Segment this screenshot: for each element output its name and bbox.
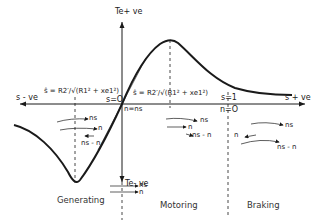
- generating-ns-label: ns: [89, 115, 97, 122]
- region-generating-label: Generating: [57, 196, 105, 205]
- braking-ns-arrow-icon: [251, 123, 283, 125]
- torque-axis-down-arrow-icon: [120, 176, 125, 182]
- torque-positive-label: Te+ ve: [115, 8, 142, 16]
- motoring-max-slip-formula: ŝ = R2′/√(R1² + xe1²): [133, 90, 208, 97]
- torque-axis-up-arrow-icon: [120, 22, 125, 28]
- slip-axis-left-arrow-icon: [20, 102, 26, 107]
- slip-negative-label: s - ve: [16, 94, 38, 102]
- motoring-ns-arrow-icon: [166, 118, 197, 121]
- generating-ns-arrow-icon: [57, 119, 88, 122]
- motoring-n-label: n: [188, 124, 192, 131]
- braking-ns-label: ns: [285, 122, 293, 129]
- braking-n-label: n: [234, 132, 238, 139]
- generating-n-arrow-icon: [60, 128, 97, 130]
- braking-n-arrow-icon: [245, 135, 256, 137]
- slip-axis-right-arrow-icon: [299, 102, 305, 107]
- torque-slip-diagram: [0, 0, 317, 223]
- braking-slip-label: ns - n: [277, 144, 297, 151]
- origin-slip-label: s=O: [106, 96, 123, 104]
- speed-zero-label: n=O: [220, 106, 238, 114]
- generating-slip-label: ns - n: [81, 140, 101, 147]
- slip-positive-label: s + ve: [285, 94, 311, 102]
- torque-curve: [14, 40, 292, 182]
- region-motoring-label: Motoring: [160, 201, 198, 210]
- region-braking-label: Braking: [247, 201, 280, 210]
- motoring-slip-label: ns - n: [192, 132, 212, 139]
- slip-one-label: s=1: [221, 94, 237, 102]
- below-n-label: n: [139, 189, 143, 196]
- braking-slip-arrow-icon: [241, 140, 279, 144]
- generating-max-slip-formula: ŝ = R2′/√(R1² + xe1²): [44, 88, 119, 95]
- generating-n-label: n: [98, 125, 102, 132]
- origin-speed-label: n=ns: [124, 106, 142, 113]
- motoring-ns-label: ns: [200, 117, 208, 124]
